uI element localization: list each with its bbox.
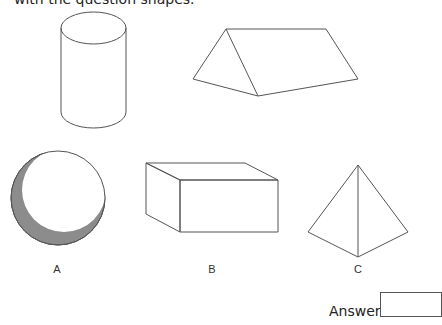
cylinder-shape bbox=[61, 12, 126, 128]
option-label-c: C bbox=[354, 263, 362, 275]
triangular-prism-shape bbox=[193, 29, 358, 96]
answer-input-box[interactable] bbox=[380, 292, 442, 317]
answer-label: Answer bbox=[329, 303, 381, 319]
pyramid-shape bbox=[308, 165, 408, 257]
option-label-a: A bbox=[53, 263, 60, 275]
cuboid-shape bbox=[146, 163, 278, 232]
option-label-b: B bbox=[208, 263, 215, 275]
sphere-shape bbox=[11, 148, 106, 245]
